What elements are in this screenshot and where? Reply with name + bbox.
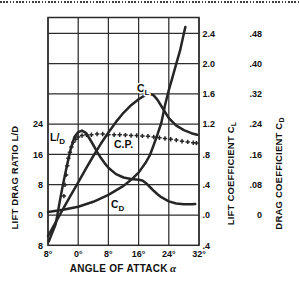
drag-coefficient-axis-title-sub: D xyxy=(278,117,285,122)
angle-of-attack-tick-label: 8° xyxy=(44,249,53,259)
lift-drag-ratio-tick-label: 8 xyxy=(38,180,43,190)
drag-coefficient-axis-title-text: DRAG COEFFICIENT C xyxy=(273,123,284,230)
angle-of-attack-tick-label: 32° xyxy=(192,249,206,259)
lift-coefficient-tick-label: .4 xyxy=(203,180,211,190)
lift-coefficient-tick-label: 2.4 xyxy=(203,29,216,39)
chart-plot: 24168082.42.01.61.2.8.4.0.4.48.40.32.24.… xyxy=(0,0,299,290)
ld-curve-label: L/D xyxy=(50,131,65,146)
drag-coefficient-tick-label: 0 xyxy=(257,210,262,220)
lift-coefficient-axis-title: LIFT COEFFICIENT CL xyxy=(225,64,238,284)
drag-coefficient-tick-label: .16 xyxy=(249,150,262,160)
airfoil-characteristics-figure: 24168082.42.01.61.2.8.4.0.4.48.40.32.24.… xyxy=(0,0,299,290)
drag-coefficient-tick-label: .24 xyxy=(249,119,262,129)
lift-drag-ratio-axis-title-text: LIFT DRAG RATIO L/D xyxy=(9,126,20,230)
lift-drag-ratio-tick-label: 24 xyxy=(33,119,43,129)
lift-coefficient-tick-label: .8 xyxy=(203,150,211,160)
x-axis-title: ANGLE OF ATTACKα xyxy=(23,262,223,275)
alpha-symbol: α xyxy=(170,262,176,274)
lift-coefficient-axis-title-text: LIFT COEFFICIENT C xyxy=(225,126,236,225)
drag-coefficient-tick-label: .48 xyxy=(249,29,262,39)
lift-drag-ratio-tick-label: 8 xyxy=(38,241,43,251)
angle-of-attack-tick-label: 16° xyxy=(132,249,146,259)
cp-curve-label: C.P. xyxy=(114,138,133,150)
x-axis-title-text: ANGLE OF ATTACK xyxy=(70,263,168,274)
lift-coefficient-tick-label: 1.6 xyxy=(203,89,216,99)
lift-drag-ratio-tick-label: 0 xyxy=(38,210,43,220)
lift-drag-ratio-tick-label: 16 xyxy=(33,150,43,160)
cd-curve-label: CD xyxy=(111,198,125,213)
angle-of-attack-tick-label: 24° xyxy=(162,249,176,259)
angle-of-attack-tick-label: 0° xyxy=(74,249,83,259)
lift-coefficient-tick-label: 1.2 xyxy=(203,119,216,129)
drag-coefficient-tick-label: .40 xyxy=(249,59,262,69)
drag-coefficient-axis-title: DRAG COEFFICIENT CD xyxy=(273,64,286,284)
lift-coefficient-axis-title-sub: L xyxy=(230,122,237,126)
lift-coefficient-tick-label: 2.0 xyxy=(203,59,216,69)
lift-coefficient-tick-label: .0 xyxy=(203,210,211,220)
drag-coefficient-tick-label: .08 xyxy=(249,180,262,190)
drag-coefficient-tick-label: .32 xyxy=(249,89,262,99)
lift-drag-ratio-axis-title: LIFT DRAG RATIO L/D xyxy=(9,68,22,288)
angle-of-attack-tick-label: 8° xyxy=(104,249,113,259)
